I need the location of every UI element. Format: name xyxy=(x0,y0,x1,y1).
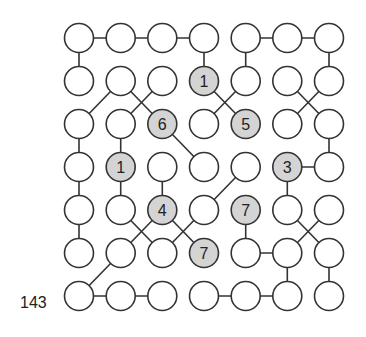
empty-node[interactable] xyxy=(65,196,94,225)
node-circle xyxy=(315,282,344,311)
node-circle xyxy=(106,282,135,311)
empty-node[interactable] xyxy=(106,282,135,311)
node-circle xyxy=(315,67,344,96)
empty-node[interactable] xyxy=(273,282,302,311)
empty-node[interactable] xyxy=(65,282,94,311)
clue-number: 1 xyxy=(116,159,125,176)
empty-node[interactable] xyxy=(315,153,344,182)
clue-node[interactable]: 4 xyxy=(148,196,177,225)
empty-node[interactable] xyxy=(315,110,344,139)
node-circle xyxy=(273,196,302,225)
clue-node[interactable]: 1 xyxy=(106,153,135,182)
empty-node[interactable] xyxy=(65,239,94,268)
clue-node[interactable]: 1 xyxy=(190,67,219,96)
clue-number: 7 xyxy=(200,245,209,262)
empty-node[interactable] xyxy=(315,196,344,225)
empty-node[interactable] xyxy=(65,67,94,96)
puzzle-grid: 16513477 xyxy=(0,0,366,337)
empty-node[interactable] xyxy=(65,110,94,139)
empty-node[interactable] xyxy=(65,153,94,182)
clue-node[interactable]: 3 xyxy=(273,153,302,182)
clue-number: 7 xyxy=(241,202,250,219)
clue-node[interactable]: 6 xyxy=(148,110,177,139)
node-circle xyxy=(315,153,344,182)
node-circle xyxy=(65,196,94,225)
node-circle xyxy=(65,110,94,139)
clue-number: 5 xyxy=(241,116,250,133)
clue-node[interactable]: 5 xyxy=(231,110,260,139)
node-circle xyxy=(106,196,135,225)
node-circle xyxy=(273,24,302,53)
empty-node[interactable] xyxy=(190,153,219,182)
empty-node[interactable] xyxy=(106,67,135,96)
empty-node[interactable] xyxy=(273,24,302,53)
empty-node[interactable] xyxy=(148,24,177,53)
clue-number: 1 xyxy=(200,73,209,90)
node-circle xyxy=(148,24,177,53)
node-circle xyxy=(65,239,94,268)
empty-node[interactable] xyxy=(315,67,344,96)
node-circle xyxy=(65,67,94,96)
empty-node[interactable] xyxy=(106,196,135,225)
puzzle-number: 143 xyxy=(20,294,47,312)
empty-node[interactable] xyxy=(273,239,302,268)
empty-node[interactable] xyxy=(148,239,177,268)
clue-number: 6 xyxy=(158,116,167,133)
empty-node[interactable] xyxy=(315,24,344,53)
empty-node[interactable] xyxy=(231,153,260,182)
node-circle xyxy=(231,153,260,182)
node-circle xyxy=(106,239,135,268)
node-circle xyxy=(148,67,177,96)
clue-node[interactable]: 7 xyxy=(231,196,260,225)
clue-number: 4 xyxy=(158,202,167,219)
node-circle xyxy=(231,239,260,268)
node-circle xyxy=(231,67,260,96)
empty-node[interactable] xyxy=(231,24,260,53)
empty-node[interactable] xyxy=(190,196,219,225)
node-circle xyxy=(231,282,260,311)
node-circle xyxy=(148,153,177,182)
empty-node[interactable] xyxy=(315,282,344,311)
node-circle xyxy=(148,282,177,311)
empty-node[interactable] xyxy=(190,110,219,139)
node-circle xyxy=(190,110,219,139)
empty-node[interactable] xyxy=(273,196,302,225)
node-circle xyxy=(65,282,94,311)
empty-node[interactable] xyxy=(106,24,135,53)
node-circle xyxy=(190,196,219,225)
node-circle xyxy=(231,24,260,53)
node-circle xyxy=(65,24,94,53)
node-circle xyxy=(273,67,302,96)
empty-node[interactable] xyxy=(315,239,344,268)
node-circle xyxy=(65,153,94,182)
empty-node[interactable] xyxy=(190,282,219,311)
empty-node[interactable] xyxy=(106,239,135,268)
empty-node[interactable] xyxy=(231,67,260,96)
empty-node[interactable] xyxy=(273,110,302,139)
empty-node[interactable] xyxy=(148,153,177,182)
node-circle xyxy=(106,24,135,53)
clue-node[interactable]: 7 xyxy=(190,239,219,268)
empty-node[interactable] xyxy=(65,24,94,53)
node-circle xyxy=(315,24,344,53)
node-circle xyxy=(106,67,135,96)
node-circle xyxy=(315,239,344,268)
node-circle xyxy=(148,239,177,268)
empty-node[interactable] xyxy=(148,67,177,96)
empty-node[interactable] xyxy=(273,67,302,96)
node-circle xyxy=(273,110,302,139)
node-circle xyxy=(190,282,219,311)
node-circle xyxy=(273,239,302,268)
node-circle xyxy=(106,110,135,139)
node-circle xyxy=(190,24,219,53)
node-circle xyxy=(315,196,344,225)
empty-node[interactable] xyxy=(231,239,260,268)
clue-number: 3 xyxy=(283,159,292,176)
empty-node[interactable] xyxy=(190,24,219,53)
node-circle xyxy=(315,110,344,139)
node-circle xyxy=(190,153,219,182)
empty-node[interactable] xyxy=(231,282,260,311)
empty-node[interactable] xyxy=(106,110,135,139)
node-circle xyxy=(273,282,302,311)
empty-node[interactable] xyxy=(148,282,177,311)
